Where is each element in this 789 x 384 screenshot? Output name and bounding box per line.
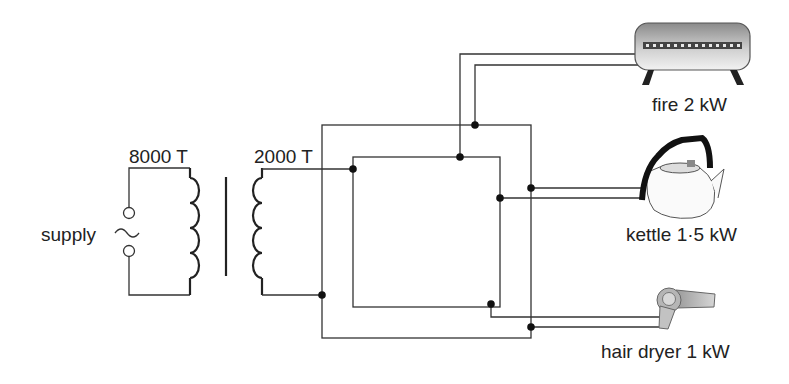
kettle-label: kettle 1·5 kW <box>626 225 737 244</box>
circuit-diagram <box>0 0 789 384</box>
primary-turns-label: 8000 T <box>129 147 188 166</box>
hair-dryer-icon <box>657 288 715 329</box>
ac-source-icon <box>115 229 139 237</box>
secondary-leads <box>262 169 353 295</box>
ring-main-wiring <box>322 54 662 338</box>
electric-fire-icon <box>635 23 750 85</box>
supply-label: supply <box>41 225 96 244</box>
dryer-lead-1 <box>491 304 662 317</box>
supply-terminal-top <box>124 208 135 219</box>
fire-lead-1 <box>460 54 640 157</box>
inner-ring <box>353 157 500 307</box>
kettle-icon <box>642 138 724 218</box>
fire-lead-2 <box>475 65 640 125</box>
junctions <box>318 121 535 331</box>
supply-terminal-bottom <box>124 246 135 257</box>
secondary-turns-label: 2000 T <box>254 147 313 166</box>
primary-circuit <box>115 168 190 295</box>
secondary-coil <box>253 168 262 295</box>
fire-label: fire 2 kW <box>652 95 727 114</box>
hair-dryer-label: hair dryer 1 kW <box>601 342 730 361</box>
primary-coil <box>190 168 199 295</box>
